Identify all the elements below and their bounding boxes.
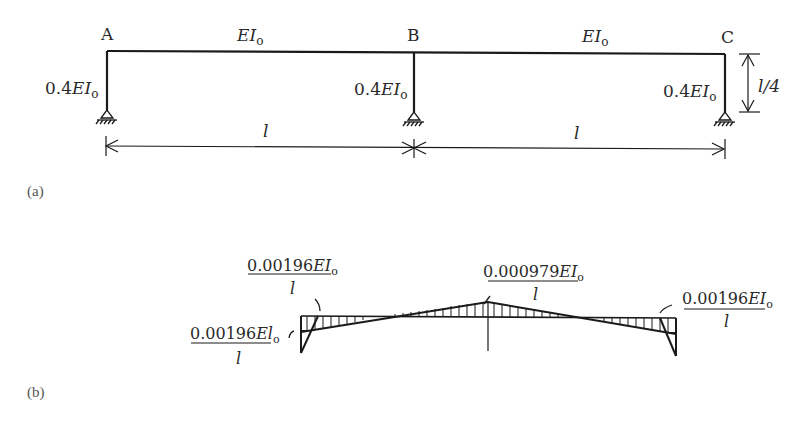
pin-support-c-icon xyxy=(714,112,735,126)
annotation-right: 0.00196EIo l xyxy=(682,289,773,331)
annotation-left-top: 0.00196EIo l xyxy=(247,256,338,298)
column-b-stiffness: 0.4EIo xyxy=(354,79,407,102)
panel-a: A B C EIo EIo 0.4EIo 0.4EIo 0.4EIo l l l… xyxy=(27,24,780,200)
panel-a-label: (a) xyxy=(27,183,44,200)
svg-text:l: l xyxy=(290,279,295,298)
frame-diagram: A B C EIo EIo 0.4EIo 0.4EIo 0.4EIo l l l… xyxy=(0,0,803,436)
column-c-stiffness: 0.4EIo xyxy=(663,81,716,104)
left-column-moment xyxy=(301,316,318,353)
node-c-label: C xyxy=(721,27,734,47)
svg-text:0.00196EIo: 0.00196EIo xyxy=(682,289,773,311)
pin-support-b-icon xyxy=(403,112,424,126)
panel-b: 0.00196EIo l 0.00196Elo l 0.000979EIo l … xyxy=(27,256,773,401)
svg-text:l: l xyxy=(236,349,241,368)
span-bc-label: l xyxy=(574,123,579,143)
height-dimension xyxy=(739,54,760,112)
span-dimension xyxy=(106,136,725,159)
svg-text:l: l xyxy=(533,285,538,304)
annotation-left-bottom: 0.00196Elo l xyxy=(190,324,280,368)
panel-b-label: (b) xyxy=(27,384,45,401)
annotation-center: 0.000979EIo l xyxy=(483,262,584,304)
span-ab-label: l xyxy=(263,121,268,141)
node-b-label: B xyxy=(407,25,420,45)
node-a-label: A xyxy=(100,24,114,44)
pin-support-a-icon xyxy=(96,110,117,124)
svg-text:0.00196EIo: 0.00196EIo xyxy=(247,256,338,278)
beam-ab-stiffness: EIo xyxy=(236,25,263,48)
svg-text:l: l xyxy=(724,312,729,331)
beam-abc xyxy=(107,51,725,54)
height-label: l/4 xyxy=(758,76,780,96)
column-a-stiffness: 0.4EIo xyxy=(45,78,98,101)
beam-bc-stiffness: EIo xyxy=(581,26,608,49)
